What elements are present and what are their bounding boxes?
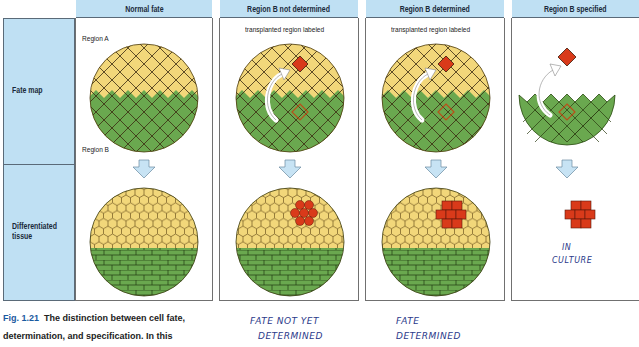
figure-caption: Fig. 1.21 The distinction between cell f…	[3, 313, 185, 323]
caption-line2: determination, and specification. In thi…	[3, 331, 173, 341]
note-determined-2: DETERMINED	[396, 331, 461, 341]
row-divider	[3, 164, 75, 165]
note-determined-1: DETERMINED	[258, 331, 323, 341]
panel-not-determined	[219, 18, 359, 301]
figure-number: Fig. 1.21	[3, 313, 39, 323]
caption-title: The distinction between cell fate,	[44, 313, 185, 323]
row-label-differentiated: Differentiated	[12, 221, 57, 231]
transplanted-label-2: transplanted region labeled	[391, 25, 470, 34]
row-label-fate-map: Fate map	[12, 85, 43, 95]
column-header-specified-top: Region B specified	[512, 0, 639, 18]
note-fate: FATE	[396, 316, 419, 326]
row-header-fate-map: Fate map	[3, 18, 75, 165]
note-in: IN	[562, 243, 571, 252]
transplanted-label-1: transplanted region labeled	[245, 25, 324, 34]
panel-determined	[365, 18, 505, 301]
column-header-normal-fate-top: Normal fate	[76, 0, 212, 18]
row-header-differentiated-tissue: Differentiated tissue	[3, 164, 75, 301]
row-label-tissue: tissue	[12, 231, 32, 241]
column-header-determined-top: Region B determined	[366, 0, 504, 18]
region-b-label: Region B	[82, 145, 109, 154]
note-fate-not-yet: FATE NOT YET	[250, 316, 319, 326]
figure-caption-line2: determination, and specification. In thi…	[3, 331, 173, 341]
region-a-label: Region A	[82, 34, 109, 43]
note-culture: CULTURE	[552, 256, 592, 265]
panel-normal-fate	[75, 18, 213, 301]
column-header-not-determined-top: Region B not determined	[220, 0, 358, 18]
